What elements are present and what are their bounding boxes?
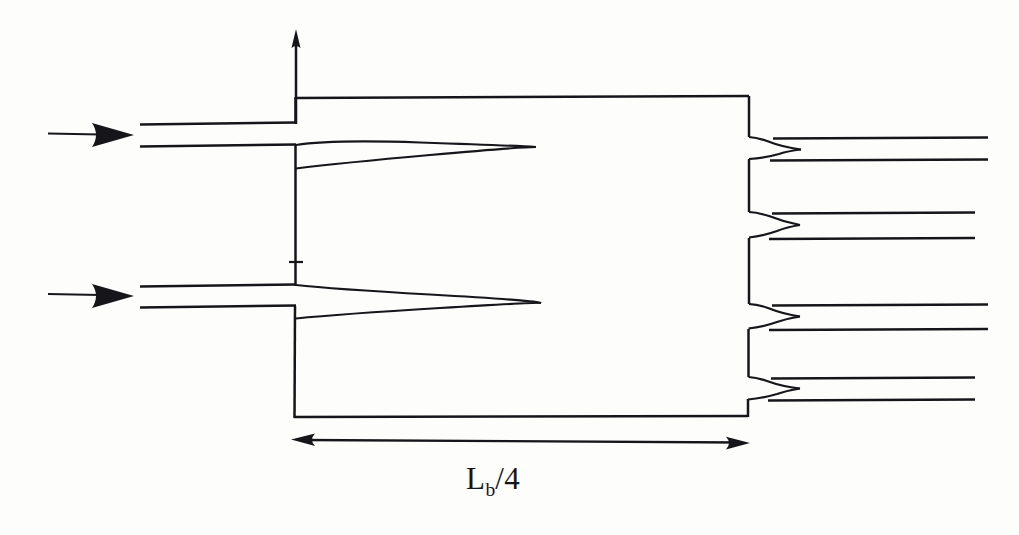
lower-input-arrow — [48, 284, 134, 308]
resonator-body — [294, 96, 749, 418]
upper-input-arrow — [48, 123, 134, 147]
lower-input-channel — [140, 285, 296, 308]
upper-input-channel — [140, 123, 296, 147]
output-port-3 — [749, 304, 989, 330]
lower-spike — [296, 285, 541, 319]
dimension-label-suffix: /4 — [495, 461, 520, 496]
figure-root: Lb/4 — [0, 0, 1019, 535]
length-dimension — [291, 434, 750, 450]
output-port-2 — [749, 212, 975, 239]
dimension-label-base: L — [466, 461, 485, 496]
dimension-label: Lb/4 — [466, 461, 520, 501]
upper-spike — [296, 141, 536, 168]
dimension-label-subscript: b — [485, 479, 495, 500]
output-port-4 — [748, 377, 975, 401]
diagram-canvas — [0, 0, 1019, 535]
output-port-1 — [749, 137, 988, 161]
